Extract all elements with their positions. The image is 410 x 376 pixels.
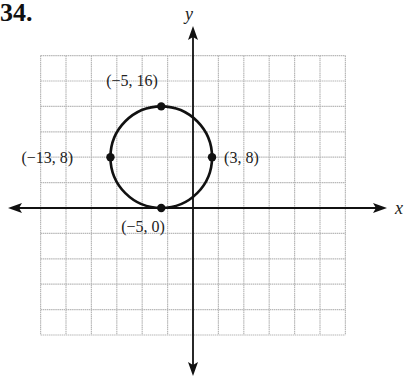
point-label: (−5, 16) — [106, 72, 158, 90]
circle-graph: xy (−5, 16)(−13, 8)(3, 8)(−5, 0) — [0, 0, 410, 376]
point-marker — [106, 153, 114, 161]
axes: xy — [8, 4, 403, 376]
point-label: (−13, 8) — [21, 149, 73, 167]
point-marker — [157, 204, 165, 212]
y-axis-label: y — [183, 4, 193, 24]
x-axis-label: x — [394, 198, 403, 218]
labeled-points: (−5, 16)(−13, 8)(3, 8)(−5, 0) — [21, 72, 258, 236]
point-marker — [157, 102, 165, 110]
point-marker — [208, 153, 216, 161]
point-label: (−5, 0) — [121, 218, 165, 236]
point-label: (3, 8) — [224, 149, 259, 167]
